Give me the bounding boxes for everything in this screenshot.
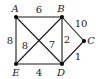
node-label-c: C	[87, 35, 95, 46]
node-c	[82, 39, 86, 43]
weighted-graph-diagram: 687821014 ABCDE	[0, 0, 98, 79]
edge-weight-d-c: 1	[75, 51, 81, 62]
edge-weight-e-d: 4	[36, 67, 42, 78]
node-label-d: D	[56, 67, 65, 78]
edge-weight-b-c: 10	[75, 18, 88, 29]
node-b	[60, 15, 64, 19]
node-d	[60, 62, 64, 66]
edge-weight-b-d: 2	[64, 34, 70, 45]
edge-weight-a-d: 7	[49, 39, 55, 50]
node-label-a: A	[10, 3, 18, 14]
edge-weight-a-b: 6	[36, 4, 42, 15]
edge-weight-a-e: 8	[7, 35, 13, 46]
edge-weight-e-b: 8	[22, 40, 28, 51]
node-e	[14, 62, 18, 66]
node-a	[14, 15, 18, 19]
node-label-b: B	[56, 3, 64, 14]
node-label-e: E	[11, 67, 20, 78]
